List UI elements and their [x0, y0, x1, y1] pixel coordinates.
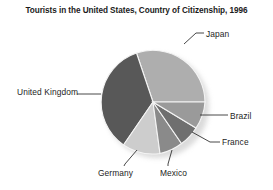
- pie-label-france: France: [222, 137, 249, 147]
- pie-label-germany: Germany: [98, 168, 133, 178]
- leader-line-japan: [184, 33, 204, 44]
- pie-chart-figure: Tourists in the United States, Country o…: [0, 0, 273, 190]
- pie-stage: Japan Brazil France Mexico Germany Unite…: [0, 0, 273, 190]
- pie-label-mexico: Mexico: [160, 168, 187, 178]
- pie-label-japan: Japan: [206, 29, 229, 39]
- pie-label-brazil: Brazil: [230, 111, 252, 121]
- leader-line-germany: [124, 150, 137, 166]
- pie-label-united-kingdom: United Kingdom: [17, 87, 78, 97]
